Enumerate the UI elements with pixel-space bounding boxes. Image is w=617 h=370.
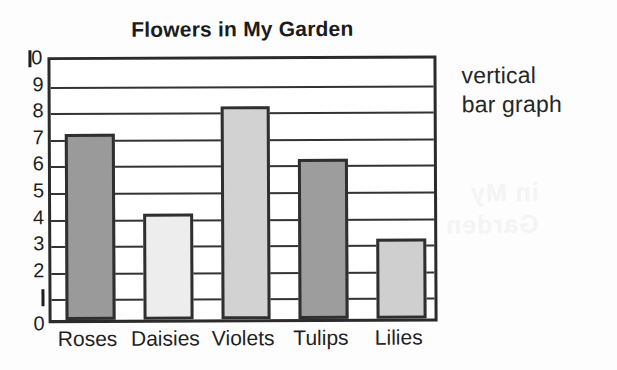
x-tick-label-tulips: Tulips [282,326,360,350]
y-tick-label-5: 5 [10,180,44,200]
x-tick-label-daisies: Daisies [126,326,204,350]
bar-series [50,58,434,320]
bar-daisies [143,213,193,320]
annotation-line-1: vertical [461,61,561,91]
y-tick-label-7: 7 [10,127,44,147]
x-tick-label-lilies: Lilies [360,325,438,349]
bar-violets [220,106,271,319]
x-axis: RosesDaisiesVioletsTulipsLilies [49,325,438,361]
digit-one-glyph [41,290,44,307]
x-tick-label-roses: Roses [49,327,127,351]
bar-lilies [376,239,426,319]
bar-tulips [298,159,348,319]
plot-area [47,55,437,323]
annotation-line-2: bar graph [462,90,562,120]
y-tick-label-2: 2 [10,260,44,280]
y-tick-label-10: 0 [9,47,43,67]
digit-one-glyph [28,50,31,67]
y-tick-label-6: 6 [10,154,44,174]
chart-title: Flowers in My Garden [47,16,437,42]
y-tick-label-0: 0 [11,313,45,333]
bar-chart-figure: Flowers in My Garden 0234567890 RosesDai… [0,0,617,370]
y-tick-label-8: 8 [10,100,44,120]
scanned-page-background: Flowers in My Garden Flowers in My Garde… [0,0,617,370]
y-axis: 0234567890 [9,57,44,323]
y-tick-label-1 [10,287,44,307]
chart-annotation: vertical bar graph [461,61,562,120]
y-tick-label-9: 9 [10,74,44,94]
y-tick-label-3: 3 [10,233,44,253]
x-tick-label-violets: Violets [204,326,282,350]
y-tick-label-4: 4 [10,207,44,227]
bar-roses [65,134,116,320]
